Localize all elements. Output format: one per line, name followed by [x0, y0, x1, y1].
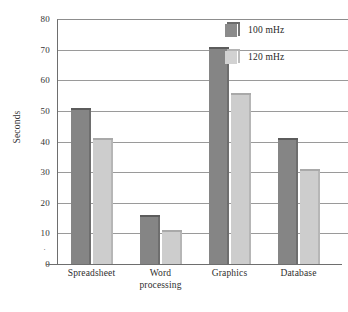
bar-face: [162, 230, 182, 264]
bar-face: [71, 108, 91, 264]
bar-chart: Seconds 01020304050607080· SpreadsheetWo…: [0, 0, 348, 312]
legend-swatch-face: [225, 51, 237, 64]
x-axis-category-label: Database: [254, 268, 344, 280]
bar-face: [300, 169, 320, 264]
bar: [300, 169, 320, 264]
bar-edge: [89, 108, 91, 264]
bar-face: [209, 47, 229, 264]
bar-face: [278, 138, 298, 264]
bar-top-highlight: [140, 215, 160, 217]
bar-top-highlight: [300, 169, 320, 171]
legend-label: 120 mHz: [248, 52, 285, 62]
dark-gray-swatch: [225, 22, 240, 37]
x-axis-labels: SpreadsheetWordprocessingGraphicsDatabas…: [57, 268, 333, 310]
bar-top-highlight: [231, 93, 251, 95]
bar: [71, 108, 91, 264]
bar: [162, 230, 182, 264]
bar-edge: [318, 169, 320, 264]
legend-item: 120 mHz: [225, 43, 343, 70]
legend-label: 100 mHz: [248, 25, 285, 35]
legend-swatch-side: [238, 50, 240, 63]
legend-swatch-top: [227, 49, 240, 51]
x-axis-label-line: processing: [116, 280, 206, 292]
bar-top-highlight: [162, 230, 182, 232]
bar-edge: [111, 138, 113, 264]
bar-edge: [158, 215, 160, 264]
bar-face: [231, 93, 251, 265]
legend-swatch-side: [238, 23, 240, 36]
bar: [140, 215, 160, 264]
legend-item: 100 mHz: [225, 16, 343, 43]
bar: [278, 138, 298, 264]
light-gray-swatch: [225, 49, 240, 64]
bar-edge: [249, 93, 251, 265]
bar: [209, 47, 229, 264]
bar-face: [140, 215, 160, 264]
bar-top-highlight: [93, 138, 113, 140]
x-axis-label-line: Database: [254, 268, 344, 280]
bar: [93, 138, 113, 264]
bar-edge: [180, 230, 182, 264]
bar-top-highlight: [278, 138, 298, 140]
bar: [231, 93, 251, 265]
bar-edge: [227, 47, 229, 264]
bar-edge: [296, 138, 298, 264]
bar-face: [93, 138, 113, 264]
legend-swatch-top: [227, 22, 240, 24]
legend-swatch-face: [225, 24, 237, 37]
bar-top-highlight: [71, 108, 91, 110]
chart-legend: 100 mHz120 mHz: [225, 16, 343, 70]
